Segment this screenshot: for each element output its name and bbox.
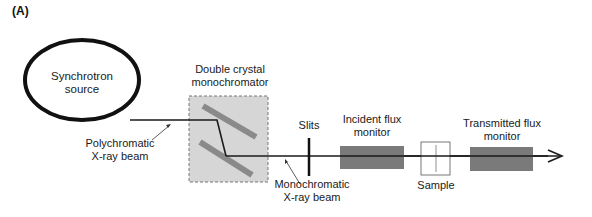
transmitted-monitor-label: Transmitted flux monitor [452,117,552,143]
monochromator-box [189,96,268,182]
transmitted-label-line1: Transmitted flux [452,117,552,130]
panel-label: (A) [12,4,29,18]
slits-label: Slits [288,119,330,132]
monochrom-label-line1: Monochromatic [262,178,362,191]
monochromatic-label: Monochromatic X-ray beam [262,178,362,204]
monochromator-label: Double crystal monochromator [180,63,280,89]
incident-label-line1: Incident flux [326,113,418,126]
polychromatic-label: Polychromatic X-ray beam [70,137,170,163]
mono-label-line2: monochromator [180,76,280,89]
transmitted-label-line2: monitor [452,130,552,143]
mono-label-line1: Double crystal [180,63,280,76]
poly-label-line2: X-ray beam [70,150,170,163]
monochrom-label-line2: X-ray beam [262,191,362,204]
beamline-diagram: (A) Synchrotron source Double crystal mo… [0,0,592,217]
source-label-line1: Synchrotron [42,70,122,83]
transmitted-flux-monitor [470,147,533,171]
poly-label-line1: Polychromatic [70,137,170,150]
incident-flux-monitor [340,146,404,169]
sample-label: Sample [410,179,462,192]
incident-label-line2: monitor [326,126,418,139]
incident-monitor-label: Incident flux monitor [326,113,418,139]
source-label-line2: source [42,83,122,96]
source-label: Synchrotron source [42,70,122,96]
